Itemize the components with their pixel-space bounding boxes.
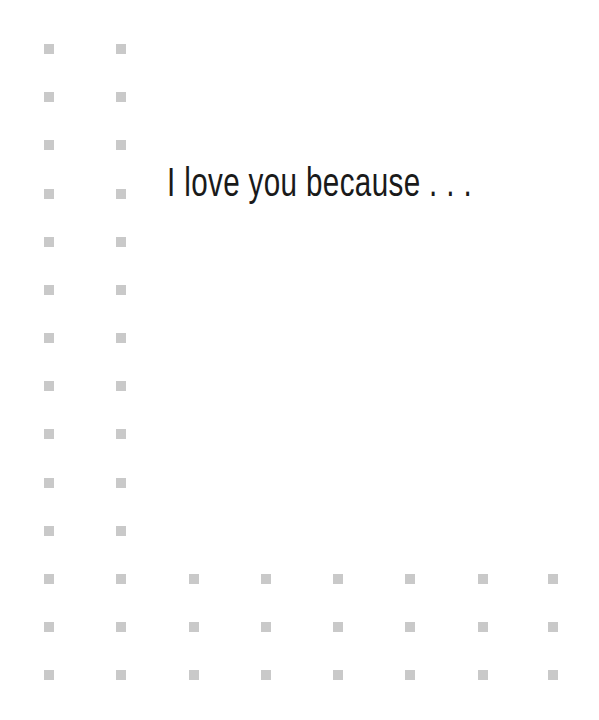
decorative-square	[44, 574, 54, 584]
decorative-square	[548, 574, 558, 584]
decorative-square	[44, 189, 54, 199]
decorative-square	[44, 44, 54, 54]
decorative-square	[478, 574, 488, 584]
decorative-square	[116, 189, 126, 199]
decorative-square	[405, 622, 415, 632]
decorative-square	[116, 92, 126, 102]
decorative-square	[261, 622, 271, 632]
decorative-square	[189, 574, 199, 584]
decorative-square	[44, 670, 54, 680]
decorative-square	[548, 670, 558, 680]
decorative-square	[44, 237, 54, 247]
decorative-square	[116, 140, 126, 150]
decorative-square	[333, 622, 343, 632]
decorative-square	[261, 670, 271, 680]
decorative-square	[333, 574, 343, 584]
decorative-square	[44, 429, 54, 439]
decorative-square	[116, 526, 126, 536]
decorative-square	[44, 92, 54, 102]
decorative-square	[116, 429, 126, 439]
decorative-square	[44, 478, 54, 488]
decorative-square	[116, 237, 126, 247]
decorative-square	[189, 670, 199, 680]
decorative-square	[116, 44, 126, 54]
decorative-square	[116, 333, 126, 343]
card-headline: I love you because . . .	[167, 160, 472, 205]
decorative-square	[44, 526, 54, 536]
decorative-square	[116, 478, 126, 488]
decorative-square	[116, 670, 126, 680]
decorative-square	[116, 285, 126, 295]
decorative-square	[478, 670, 488, 680]
decorative-square	[44, 381, 54, 391]
decorative-square	[405, 670, 415, 680]
decorative-square	[189, 622, 199, 632]
decorative-square	[333, 670, 343, 680]
decorative-square	[116, 381, 126, 391]
decorative-square	[548, 622, 558, 632]
decorative-square	[116, 574, 126, 584]
decorative-square	[116, 622, 126, 632]
decorative-square	[405, 574, 415, 584]
decorative-square	[478, 622, 488, 632]
decorative-square	[44, 333, 54, 343]
decorative-square	[261, 574, 271, 584]
decorative-square	[44, 140, 54, 150]
decorative-square	[44, 622, 54, 632]
decorative-square	[44, 285, 54, 295]
